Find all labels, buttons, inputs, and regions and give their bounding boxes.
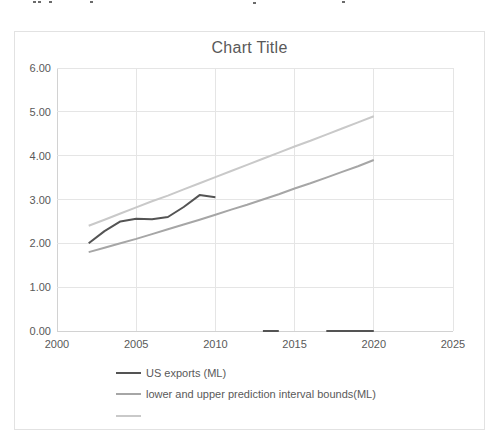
chart-frame[interactable]: Chart Title 0.001.002.003.004.005.006.00… — [14, 31, 485, 430]
screenshot-root: Chart Title 0.001.002.003.004.005.006.00… — [0, 0, 499, 448]
legend-line-swatch — [116, 415, 141, 417]
legend-line-swatch — [116, 372, 141, 374]
y-tick-label: 1.00 — [15, 280, 51, 294]
x-tick-label: 2020 — [354, 338, 394, 351]
x-tick-label: 2000 — [37, 338, 77, 351]
text-fragment — [342, 1, 345, 3]
text-fragment — [49, 1, 52, 3]
y-tick-label: 2.00 — [15, 236, 51, 250]
x-tick-label: 2010 — [195, 338, 235, 351]
y-tick-label: 3.00 — [15, 193, 51, 207]
text-fragment — [90, 1, 93, 3]
legend-item-us-exports: US exports (ML) — [116, 362, 376, 384]
y-tick-label: 0.00 — [15, 324, 51, 338]
text-fragment — [33, 1, 36, 3]
x-tick-label: 2015 — [275, 338, 315, 351]
y-tick-label: 4.00 — [15, 149, 51, 163]
y-tick-label: 6.00 — [15, 61, 51, 75]
chart-legend: US exports (ML) lower and upper predicti… — [116, 362, 376, 427]
chart-title: Chart Title — [15, 39, 484, 57]
legend-line-swatch — [116, 393, 141, 395]
legend-item-unlabeled — [116, 405, 376, 427]
plot-area — [57, 68, 453, 331]
legend-item-prediction-bounds: lower and upper prediction interval boun… — [116, 384, 376, 406]
x-tick-label: 2025 — [433, 338, 473, 351]
x-tick-label: 2005 — [116, 338, 156, 351]
legend-label: lower and upper prediction interval boun… — [146, 388, 376, 400]
text-fragment — [38, 1, 41, 3]
y-tick-label: 5.00 — [15, 105, 51, 119]
text-fragment — [253, 2, 256, 4]
legend-label: US exports (ML) — [146, 367, 226, 379]
